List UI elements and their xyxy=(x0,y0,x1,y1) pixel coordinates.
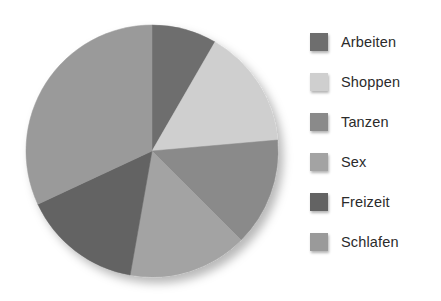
legend-swatch-icon xyxy=(310,153,328,171)
legend-item-arbeiten[interactable]: Arbeiten xyxy=(310,22,441,62)
legend-label: Freizeit xyxy=(341,195,390,210)
legend-label: Arbeiten xyxy=(341,35,396,50)
pie-svg xyxy=(0,0,300,301)
pie-slices-group xyxy=(26,25,278,277)
legend-swatch-icon xyxy=(310,233,328,251)
legend-label: Tanzen xyxy=(341,115,389,130)
legend-item-tanzen[interactable]: Tanzen xyxy=(310,102,441,142)
legend-swatch-icon xyxy=(310,73,328,91)
pie-plot-area xyxy=(0,0,300,301)
legend-swatch-icon xyxy=(310,33,328,51)
legend-item-sex[interactable]: Sex xyxy=(310,142,441,182)
legend-item-schlafen[interactable]: Schlafen xyxy=(310,222,441,262)
legend-swatch-icon xyxy=(310,113,328,131)
legend-label: Shoppen xyxy=(341,75,400,90)
pie-chart-figure: Arbeiten Shoppen Tanzen Sex Freizeit Sch… xyxy=(0,0,441,301)
legend-label: Schlafen xyxy=(341,235,399,250)
legend-item-freizeit[interactable]: Freizeit xyxy=(310,182,441,222)
legend-swatch-icon xyxy=(310,193,328,211)
legend-label: Sex xyxy=(341,155,366,170)
chart-legend: Arbeiten Shoppen Tanzen Sex Freizeit Sch… xyxy=(310,22,441,280)
legend-item-shoppen[interactable]: Shoppen xyxy=(310,62,441,102)
